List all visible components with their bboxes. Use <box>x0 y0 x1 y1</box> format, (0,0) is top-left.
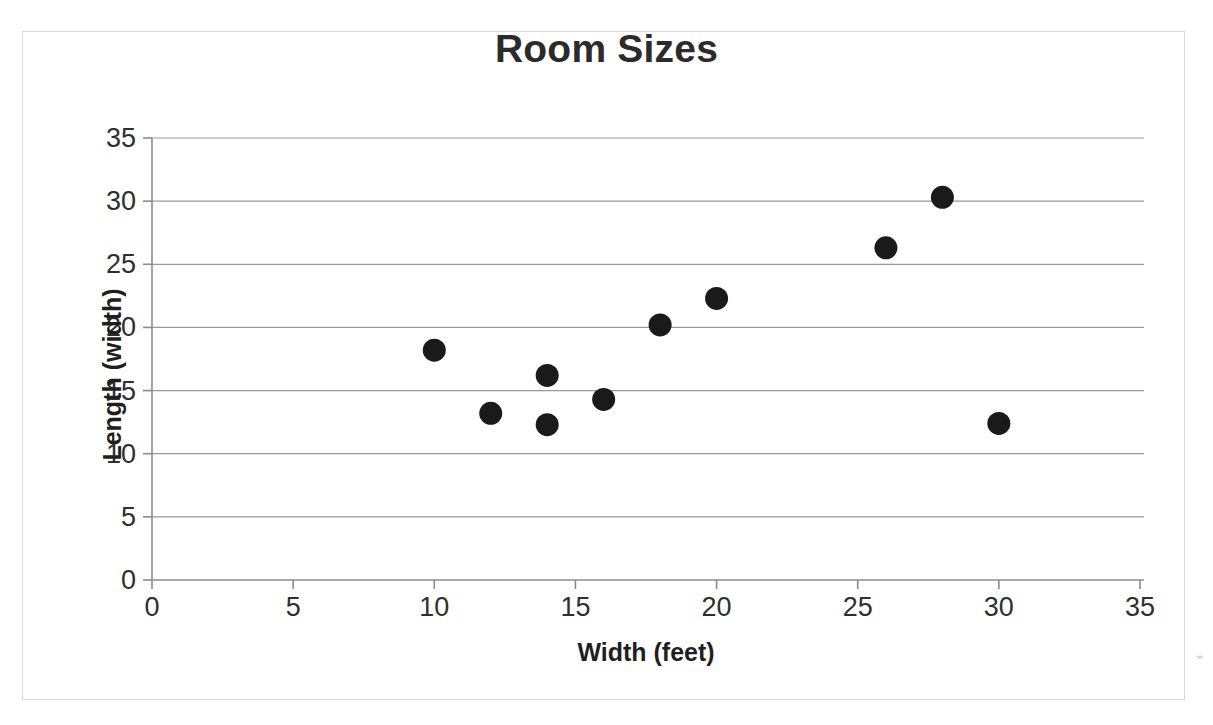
scan-artifact: ⌁ <box>1196 650 1208 664</box>
y-axis-title: Length (width) <box>98 225 127 525</box>
x-axis-tick-labels: 05101520253035 <box>0 592 1213 632</box>
x-tick-label-15: 15 <box>560 592 590 623</box>
x-tick-label-10: 10 <box>419 592 449 623</box>
x-tick-label-5: 5 <box>286 592 301 623</box>
x-tick-label-20: 20 <box>702 592 732 623</box>
y-axis-title-wrapper: Length (width) <box>62 60 102 580</box>
x-axis-title: Width (feet) <box>152 638 1140 667</box>
x-tick-label-35: 35 <box>1125 592 1155 623</box>
x-tick-label-25: 25 <box>843 592 873 623</box>
x-tick-label-30: 30 <box>984 592 1014 623</box>
chart-title: Room Sizes <box>0 27 1213 71</box>
x-tick-label-0: 0 <box>144 592 159 623</box>
